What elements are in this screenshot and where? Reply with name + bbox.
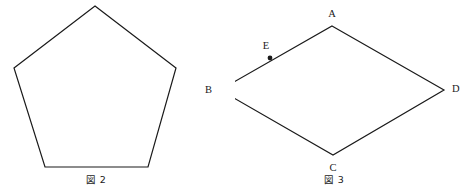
vertex-label-b: B [205, 85, 212, 96]
rhombus-drawing [235, 0, 471, 194]
figure-2-panel: 図 2 [0, 0, 235, 194]
vertex-label-a: A [328, 9, 336, 20]
pentagon-drawing [0, 0, 235, 194]
pentagon-outline [14, 6, 176, 167]
figure-sheet: 図 2 A B C D E 図 3 [0, 0, 471, 194]
point-label-e: E [263, 41, 269, 52]
figure-2-caption: 図 2 [86, 175, 106, 185]
vertex-label-c: C [329, 163, 336, 174]
figure-3-panel: A B C D E 図 3 [235, 0, 471, 194]
point-e-marker [268, 56, 273, 61]
vertex-label-d: D [452, 84, 460, 95]
figure-3-caption: 図 3 [324, 175, 344, 185]
